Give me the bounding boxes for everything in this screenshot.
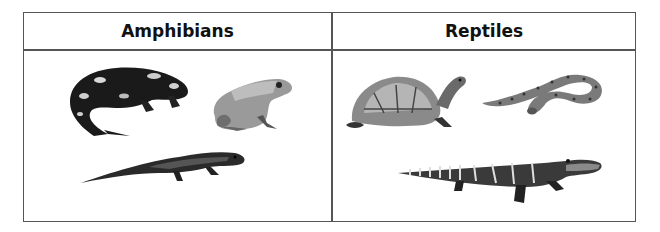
header-reptiles: Reptiles: [332, 13, 636, 49]
header-amphibians: Amphibians: [24, 13, 331, 49]
classification-table: Amphibians Reptiles: [23, 12, 636, 222]
newt-image: [79, 145, 249, 185]
frog-image: [207, 73, 297, 135]
fire-salamander-image: [64, 58, 194, 138]
turtle-image: [344, 71, 469, 133]
snake-image: [480, 71, 608, 119]
alligator-image: [396, 151, 606, 206]
header-divider: [24, 49, 635, 51]
